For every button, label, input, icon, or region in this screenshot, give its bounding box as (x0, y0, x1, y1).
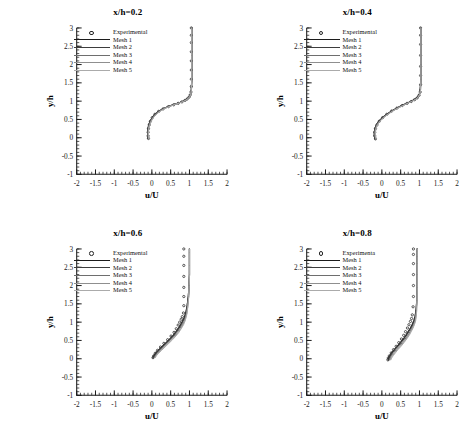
y-tick-label: 0 (70, 354, 74, 363)
y-tick-label: 1 (299, 97, 303, 106)
x-tick-label: 1 (417, 179, 421, 188)
legend-line-swatch (72, 264, 110, 272)
legend-item-mesh-1: Mesh 1 (72, 256, 168, 264)
x-tick-label: -0.5 (357, 179, 369, 188)
y-tick-label: 0 (70, 133, 74, 142)
x-tick-label: -1.5 (90, 179, 102, 188)
legend-label: Mesh 1 (110, 256, 132, 264)
legend-item-mesh-5: Mesh 5 (302, 66, 398, 74)
legend-label: Experimental (340, 28, 377, 36)
x-tick-label: -2 (74, 179, 80, 188)
plot-panel: x/h=0.8-2-1.5-1-0.500.511.52-1-0.500.511… (230, 221, 459, 441)
legend-line-swatch (302, 66, 340, 74)
x-tick-label: 0 (150, 399, 154, 408)
legend-item-mesh-3: Mesh 3 (302, 271, 398, 279)
legend-item-experimental: Experimental (302, 28, 398, 36)
x-tick-label: 1 (188, 399, 192, 408)
legend-label: Mesh 2 (340, 264, 362, 272)
legend-label: Mesh 4 (110, 279, 132, 287)
y-tick-label: -1 (297, 170, 303, 179)
legend-line-swatch (72, 256, 110, 264)
legend-line-swatch (302, 256, 340, 264)
panel-title: x/h=0.2 (0, 7, 230, 17)
figure-panel-grid: x/h=0.2-2-1.5-1-0.500.511.52-1-0.500.511… (0, 0, 459, 441)
legend-item-mesh-1: Mesh 1 (72, 36, 168, 44)
x-tick-label: 1 (188, 179, 192, 188)
x-axis-title: u/U (145, 190, 159, 200)
panel-title: x/h=0.6 (0, 228, 230, 238)
x-axis-title: u/U (374, 190, 388, 200)
open-circle-marker (72, 28, 110, 36)
legend-item-mesh-3: Mesh 3 (72, 51, 168, 59)
legend-label: Experimental (110, 249, 147, 257)
legend-line-swatch (302, 51, 340, 59)
y-tick-label: -0.5 (62, 152, 74, 161)
y-tick-label: 0.5 (64, 336, 73, 345)
panel-title: x/h=0.8 (230, 228, 459, 238)
legend-label: Mesh 4 (110, 58, 132, 66)
x-tick-label: 0 (380, 399, 384, 408)
x-tick-label: 0 (150, 179, 154, 188)
y-tick-label: 1.5 (64, 78, 73, 87)
x-tick-label: 1.5 (204, 179, 213, 188)
legend-line-swatch (302, 279, 340, 287)
legend-item-mesh-2: Mesh 2 (72, 264, 168, 272)
y-axis-title: y/h (45, 316, 55, 328)
x-tick-label: -1.5 (90, 399, 102, 408)
legend-item-mesh-5: Mesh 5 (302, 286, 398, 294)
legend-line-swatch (302, 36, 340, 44)
plot-panel: x/h=0.6-2-1.5-1-0.500.511.52-1-0.500.511… (0, 221, 230, 441)
legend-item-mesh-3: Mesh 3 (302, 51, 398, 59)
y-tick-label: 1.5 (294, 299, 303, 308)
open-circle-marker (302, 28, 340, 36)
y-axis-title: y/h (274, 316, 284, 328)
legend-line-swatch (302, 264, 340, 272)
x-tick-label: 2 (455, 399, 459, 408)
legend-label: Mesh 5 (110, 286, 132, 294)
plot-panel: x/h=0.2-2-1.5-1-0.500.511.52-1-0.500.511… (0, 0, 230, 221)
legend-label: Mesh 3 (110, 271, 132, 279)
y-tick-label: 1 (70, 317, 74, 326)
legend-label: Mesh 2 (110, 264, 132, 272)
panel-title: x/h=0.4 (230, 7, 459, 17)
legend-line-swatch (72, 271, 110, 279)
x-tick-label: -0.5 (127, 399, 139, 408)
y-tick-label: 0 (299, 354, 303, 363)
legend-line-swatch (72, 66, 110, 74)
x-tick-label: -1 (341, 179, 347, 188)
legend-line-swatch (302, 43, 340, 51)
legend-label: Mesh 3 (340, 51, 362, 59)
legend-line-swatch (72, 58, 110, 66)
legend-item-mesh-4: Mesh 4 (72, 58, 168, 66)
legend-label: Experimental (110, 28, 147, 36)
y-tick-label: 0.5 (64, 115, 73, 124)
legend-label: Mesh 3 (110, 51, 132, 59)
legend-item-mesh-2: Mesh 2 (302, 264, 398, 272)
x-tick-label: -1 (341, 399, 347, 408)
legend-item-mesh-3: Mesh 3 (72, 271, 168, 279)
legend-line-swatch (72, 43, 110, 51)
legend-line-swatch (302, 286, 340, 294)
legend-line-swatch (72, 279, 110, 287)
y-tick-label: -1 (67, 170, 73, 179)
legend-line-swatch (302, 271, 340, 279)
x-tick-label: 0.5 (396, 399, 405, 408)
x-tick-label: 1.5 (433, 179, 442, 188)
y-tick-label: 1.5 (294, 78, 303, 87)
legend-item-experimental: Experimental (72, 28, 168, 36)
legend-item-mesh-2: Mesh 2 (72, 43, 168, 51)
y-tick-label: -0.5 (62, 372, 74, 381)
x-tick-label: 0 (380, 179, 384, 188)
y-tick-label: 1 (70, 97, 74, 106)
x-tick-label: -0.5 (127, 179, 139, 188)
legend-item-mesh-4: Mesh 4 (302, 279, 398, 287)
x-axis-title: u/U (145, 411, 159, 421)
legend-label: Mesh 5 (110, 66, 132, 74)
legend-label: Mesh 3 (340, 271, 362, 279)
legend-label: Mesh 4 (340, 58, 362, 66)
x-axis-title: u/U (374, 411, 388, 421)
legend-item-mesh-4: Mesh 4 (302, 58, 398, 66)
x-tick-label: 2 (455, 179, 459, 188)
y-tick-label: 1.5 (64, 299, 73, 308)
legend: ExperimentaMesh 1Mesh 2Mesh 3Mesh 4Mesh … (302, 249, 398, 295)
